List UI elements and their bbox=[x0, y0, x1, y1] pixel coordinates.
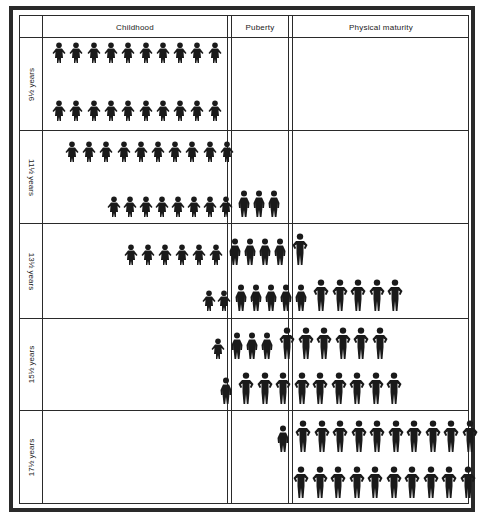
adult-figure-icon bbox=[293, 372, 311, 405]
row-divider bbox=[20, 130, 468, 131]
adult-figure-icon bbox=[313, 420, 331, 453]
puberty-figure-icon bbox=[245, 332, 259, 360]
adult-figure-icon bbox=[368, 420, 386, 453]
child-figure-icon bbox=[87, 42, 101, 64]
child-figure-icon bbox=[171, 196, 185, 218]
puberty-figure-icon bbox=[264, 284, 278, 312]
child-figure-icon bbox=[117, 141, 131, 163]
adult-figure-icon bbox=[291, 233, 309, 266]
row-label-13-5: 13½ years bbox=[20, 224, 43, 318]
child-figure-icon bbox=[211, 338, 225, 360]
adult-figure-icon bbox=[274, 372, 292, 405]
header-physical-maturity: Physical maturity bbox=[293, 16, 469, 38]
adult-figure-icon bbox=[422, 466, 440, 499]
adult-figure-icon bbox=[292, 466, 310, 499]
child-figure-icon bbox=[203, 141, 217, 163]
child-figure-icon bbox=[208, 42, 222, 64]
puberty-figure-icon bbox=[243, 238, 257, 266]
adult-figure-icon bbox=[385, 372, 403, 405]
adult-figure-icon bbox=[368, 279, 386, 312]
adult-figure-icon bbox=[405, 420, 423, 453]
row-label-text: 15½ years bbox=[27, 346, 36, 383]
child-figure-icon bbox=[190, 100, 204, 122]
row-label-text: 9½ years bbox=[27, 68, 36, 101]
child-figure-icon bbox=[124, 244, 138, 266]
child-figure-icon bbox=[104, 100, 118, 122]
adult-figure-icon bbox=[348, 466, 366, 499]
child-figure-icon bbox=[158, 244, 172, 266]
child-figure-icon bbox=[175, 244, 189, 266]
puberty-figure-icon bbox=[230, 332, 244, 360]
row-label-text: 11½ years bbox=[27, 159, 36, 196]
adult-figure-icon bbox=[387, 420, 405, 453]
row-label-text: 17½ years bbox=[27, 439, 36, 476]
adult-figure-icon bbox=[424, 420, 442, 453]
puberty-figure-icon bbox=[249, 284, 263, 312]
adult-figure-icon bbox=[278, 327, 296, 360]
child-figure-icon bbox=[217, 290, 231, 312]
child-figure-icon bbox=[173, 42, 187, 64]
adult-figure-icon bbox=[352, 327, 370, 360]
child-figure-icon bbox=[192, 244, 206, 266]
child-figure-icon bbox=[155, 196, 169, 218]
child-figure-icon bbox=[141, 244, 155, 266]
adult-figure-icon bbox=[350, 420, 368, 453]
row-divider bbox=[20, 318, 468, 319]
adult-figure-icon bbox=[366, 466, 384, 499]
child-figure-icon bbox=[139, 196, 153, 218]
puberty-figure-icon bbox=[294, 284, 308, 312]
child-figure-icon bbox=[156, 42, 170, 64]
adult-figure-icon bbox=[371, 327, 389, 360]
child-figure-icon bbox=[69, 42, 83, 64]
adult-figure-icon bbox=[440, 466, 458, 499]
adult-figure-icon bbox=[256, 372, 274, 405]
puberty-figure-icon bbox=[260, 332, 274, 360]
child-figure-icon bbox=[82, 141, 96, 163]
child-figure-icon bbox=[69, 100, 83, 122]
child-figure-icon bbox=[209, 244, 223, 266]
row-label-text: 13½ years bbox=[27, 252, 36, 289]
child-figure-icon bbox=[156, 100, 170, 122]
child-figure-icon bbox=[203, 196, 217, 218]
child-figure-icon bbox=[151, 141, 165, 163]
child-figure-icon bbox=[52, 100, 66, 122]
child-figure-icon bbox=[123, 196, 137, 218]
adult-figure-icon bbox=[311, 372, 329, 405]
puberty-figure-icon bbox=[252, 190, 266, 218]
adult-figure-icon bbox=[330, 372, 348, 405]
child-figure-icon bbox=[121, 100, 135, 122]
adult-figure-icon bbox=[237, 372, 255, 405]
puberty-figure-icon bbox=[273, 238, 287, 266]
adult-figure-icon bbox=[403, 466, 421, 499]
adult-figure-icon bbox=[315, 327, 333, 360]
adult-figure-icon bbox=[334, 327, 352, 360]
child-figure-icon bbox=[208, 100, 222, 122]
puberty-figure-icon bbox=[276, 425, 290, 453]
row-divider bbox=[20, 223, 468, 224]
header-puberty: Puberty bbox=[232, 16, 288, 38]
pictogram-table: Childhood Puberty Physical maturity 9½ y… bbox=[19, 15, 469, 504]
adult-figure-icon bbox=[459, 466, 477, 499]
child-figure-icon bbox=[65, 141, 79, 163]
puberty-figure-icon bbox=[279, 284, 293, 312]
child-figure-icon bbox=[220, 141, 234, 163]
adult-figure-icon bbox=[385, 466, 403, 499]
adult-figure-icon bbox=[297, 327, 315, 360]
row-divider bbox=[20, 410, 468, 411]
adult-figure-icon bbox=[349, 279, 367, 312]
adult-figure-icon bbox=[329, 466, 347, 499]
child-figure-icon bbox=[104, 42, 118, 64]
child-figure-icon bbox=[173, 100, 187, 122]
adult-figure-icon bbox=[312, 279, 330, 312]
child-figure-icon bbox=[52, 42, 66, 64]
adult-figure-icon bbox=[331, 420, 349, 453]
adult-figure-icon bbox=[348, 372, 366, 405]
child-figure-icon bbox=[99, 141, 113, 163]
adult-figure-icon bbox=[311, 466, 329, 499]
child-figure-icon bbox=[121, 42, 135, 64]
puberty-figure-icon bbox=[228, 238, 242, 266]
child-figure-icon bbox=[219, 196, 233, 218]
adult-figure-icon bbox=[461, 420, 479, 453]
adult-figure-icon bbox=[294, 420, 312, 453]
header-childhood: Childhood bbox=[43, 16, 227, 38]
